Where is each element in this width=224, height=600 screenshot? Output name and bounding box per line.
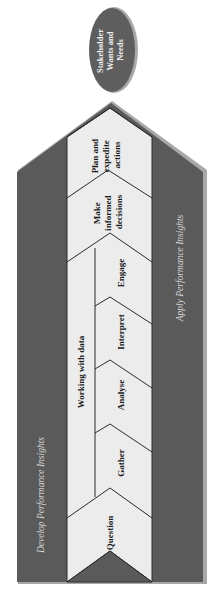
step-question: Question [105, 516, 115, 551]
step-gather: Gather [116, 449, 126, 477]
step-act: Plan and expedite actions [90, 137, 122, 174]
step-interpret: Interpret [116, 314, 126, 349]
side-label-apply: Apply Performance Insights [175, 214, 185, 322]
step-analyse: Analyse [116, 380, 126, 411]
process-diagram: Question Gather Analyse Interpret Engage… [0, 0, 224, 600]
side-label-develop: Develop Performance Insights [36, 437, 46, 554]
group-label-working-with-data: Working with data [76, 335, 86, 408]
step-engage: Engage [116, 259, 126, 288]
